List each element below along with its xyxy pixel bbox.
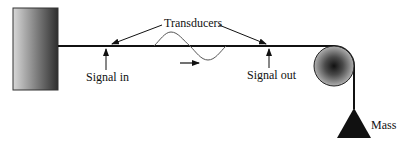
mass-label: Mass: [371, 118, 397, 132]
hanging-mass: [337, 108, 371, 138]
transducer-arrow-right-icon: [219, 25, 266, 44]
wire-apparatus-diagram: Mass Transducers Signal in Signal out: [0, 0, 405, 145]
wall-support: [13, 8, 58, 90]
pulley: [314, 46, 354, 86]
transducer-arrow-left-icon: [112, 25, 162, 44]
signal-out-label: Signal out: [247, 68, 297, 82]
transducers-label: Transducers: [164, 16, 223, 30]
signal-in-label: Signal in: [86, 70, 129, 84]
